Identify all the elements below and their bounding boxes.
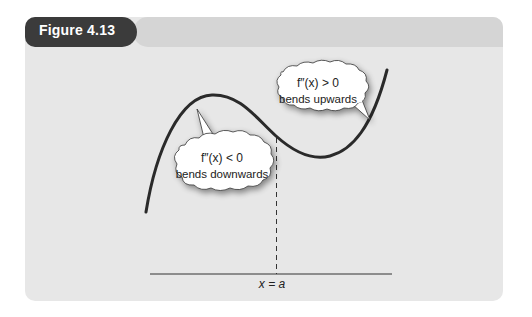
right-bubble-condition: f″(x) > 0 xyxy=(297,76,339,90)
inflection-diagram: f″(x) < 0 bends downwards f″(x) > 0 bend… xyxy=(0,0,532,317)
left-bubble-caption: bends downwards xyxy=(176,168,269,180)
left-bubble-condition: f″(x) < 0 xyxy=(201,151,243,165)
right-bubble-caption: bends upwards xyxy=(279,93,357,105)
right-speech-bubble xyxy=(277,60,370,120)
axis-label: x = a xyxy=(258,277,286,291)
